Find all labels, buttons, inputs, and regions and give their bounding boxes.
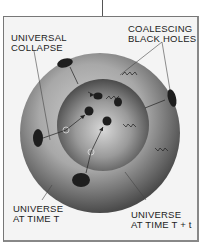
black-hole xyxy=(85,107,94,116)
label-universe-at-time-t-plus-t: UNIVERSE AT TIME T + t xyxy=(131,210,192,230)
black-hole xyxy=(94,93,103,100)
black-hole xyxy=(103,117,112,126)
label-universal-collapse: UNIVERSAL COLLAPSE xyxy=(11,33,67,53)
black-hole xyxy=(114,98,122,107)
black-hole xyxy=(33,129,43,147)
label-universe-at-time-t: UNIVERSE AT TIME T xyxy=(13,204,63,224)
label-coalescing-black-holes: COALESCING BLACK HOLES xyxy=(128,24,196,44)
black-hole xyxy=(72,173,90,187)
inner-sphere xyxy=(57,79,149,171)
